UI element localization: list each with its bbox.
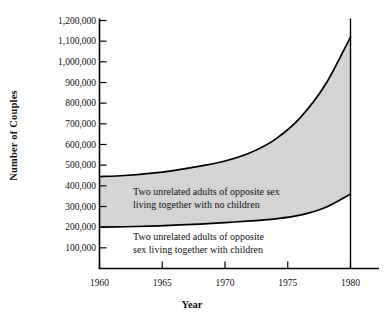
x-axis-tick-label: 1960 bbox=[90, 278, 109, 289]
chart-container: Number of Couples 1,200,0001,100,0001,00… bbox=[0, 0, 384, 328]
x-axis-tick-label: 1965 bbox=[153, 278, 172, 289]
x-axis-tick-label: 1980 bbox=[341, 278, 360, 289]
x-axis-tick-label-group: 19601965197019751980 bbox=[0, 0, 384, 328]
x-axis-tick-label: 1970 bbox=[216, 278, 235, 289]
x-axis-tick-label: 1975 bbox=[278, 278, 297, 289]
x-axis-title: Year bbox=[0, 299, 384, 310]
